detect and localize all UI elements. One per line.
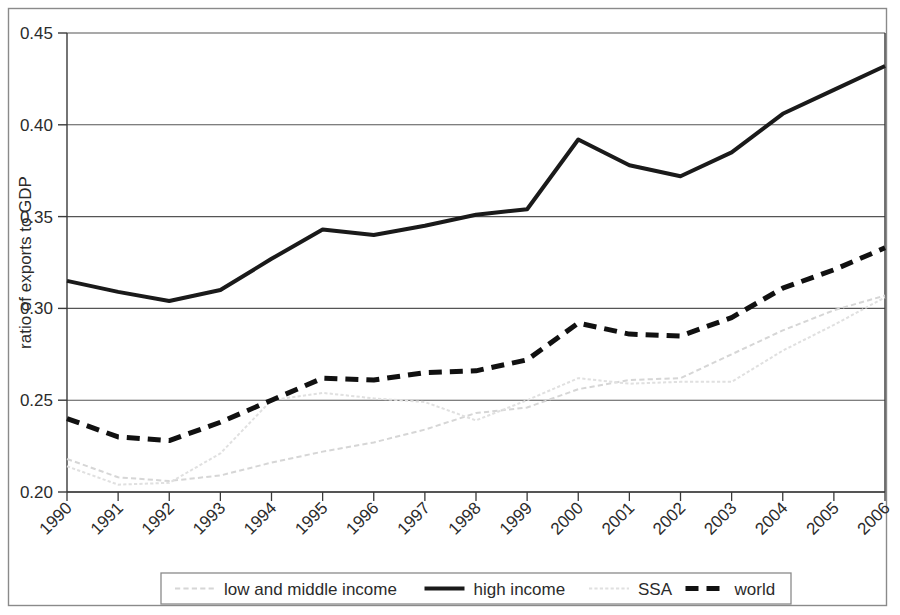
data-series-group	[67, 66, 885, 485]
x-tick-label: 1996	[342, 498, 382, 538]
x-tick-label: 1993	[189, 498, 229, 538]
x-tick-label: 2005	[803, 498, 843, 538]
series-line	[67, 248, 885, 441]
gridlines	[67, 33, 885, 492]
y-tick-label: 0.20	[20, 483, 53, 502]
x-tick-label: 1997	[394, 498, 434, 538]
x-tick-label: 1991	[87, 498, 127, 538]
legend-label: world	[734, 580, 776, 599]
x-tick-label: 1990	[36, 498, 76, 538]
chart-legend: low and middle incomehigh incomeSSAworld	[161, 573, 791, 604]
x-tick-label: 1992	[138, 498, 178, 538]
x-tick-label: 1999	[496, 498, 536, 538]
x-tick-label: 2002	[649, 498, 689, 538]
y-axis-ticks	[58, 33, 67, 492]
x-axis-ticks	[67, 492, 885, 501]
series-line	[67, 66, 885, 301]
series-line	[67, 296, 885, 481]
plot-frame	[67, 33, 885, 492]
series-line	[67, 297, 885, 484]
figure-container: 1990199119921993199419951996199719981999…	[0, 0, 900, 615]
legend-label: low and middle income	[224, 580, 397, 599]
x-tick-label: 2004	[751, 498, 791, 538]
x-tick-label: 2003	[700, 498, 740, 538]
legend-label: high income	[474, 580, 566, 599]
x-tick-label: 2006	[854, 498, 894, 538]
x-axis-tick-labels: 1990199119921993199419951996199719981999…	[36, 498, 894, 538]
legend-label: SSA	[638, 580, 673, 599]
x-tick-label: 1994	[240, 498, 280, 538]
y-axis-title: ratio of exports to GDP	[16, 176, 35, 349]
x-tick-label: 2000	[547, 498, 587, 538]
y-tick-label: 0.40	[20, 116, 53, 135]
y-tick-label: 0.45	[20, 24, 53, 43]
x-tick-label: 2001	[598, 498, 638, 538]
x-tick-label: 1995	[291, 498, 331, 538]
x-tick-label: 1998	[445, 498, 485, 538]
line-chart: 1990199119921993199419951996199719981999…	[0, 0, 900, 615]
y-tick-label: 0.25	[20, 391, 53, 410]
